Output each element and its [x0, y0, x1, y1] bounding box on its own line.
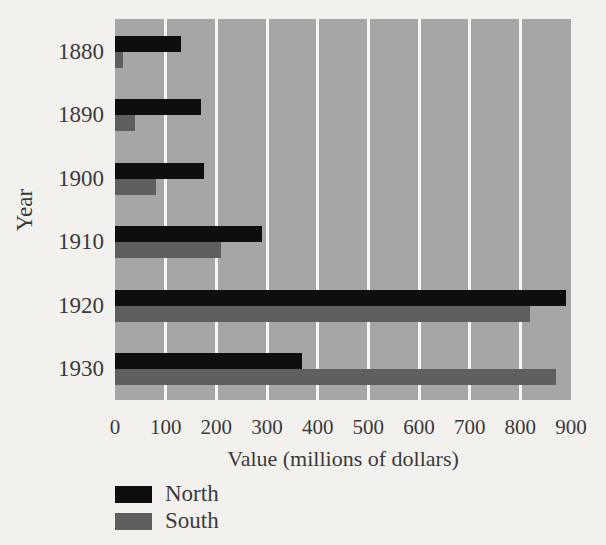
bar-chart-figure: Year 188018901900191019201930 0100200300…	[0, 0, 606, 545]
legend-item-north: North	[115, 481, 219, 507]
gridline-200	[215, 19, 218, 400]
x-tick-label-800: 800	[505, 414, 537, 440]
legend-item-south: South	[115, 508, 219, 534]
legend-label-south: South	[165, 508, 219, 534]
x-tick-label-100: 100	[150, 414, 182, 440]
x-tick-label-300: 300	[251, 414, 283, 440]
plot-area	[115, 19, 571, 400]
legend-swatch-north	[115, 486, 152, 503]
bar-north-1900	[115, 163, 204, 179]
y-tick-label-1930: 1930	[30, 356, 104, 382]
y-tick-label-1910: 1910	[30, 229, 104, 255]
bar-north-1920	[115, 290, 566, 306]
bar-south-1890	[115, 115, 135, 131]
bar-south-1910	[115, 242, 221, 258]
x-tick-label-200: 200	[201, 414, 233, 440]
x-tick-label-600: 600	[403, 414, 435, 440]
bar-north-1910	[115, 226, 262, 242]
x-tick-label-900: 900	[555, 414, 587, 440]
bar-south-1930	[115, 369, 556, 385]
bar-south-1880	[115, 52, 123, 68]
gridline-500	[367, 19, 370, 400]
gridline-300	[266, 19, 269, 400]
x-tick-label-400: 400	[302, 414, 334, 440]
x-tick-label-700: 700	[454, 414, 486, 440]
y-tick-label-1920: 1920	[30, 293, 104, 319]
gridline-800	[519, 19, 522, 400]
bar-north-1930	[115, 353, 302, 369]
gridline-600	[418, 19, 421, 400]
x-axis-title: Value (millions of dollars)	[115, 446, 571, 472]
legend-swatch-south	[115, 513, 152, 530]
gridline-100	[164, 19, 167, 400]
y-tick-label-1890: 1890	[30, 102, 104, 128]
bar-north-1880	[115, 36, 181, 52]
bar-north-1890	[115, 99, 201, 115]
bar-south-1900	[115, 179, 156, 195]
bar-south-1920	[115, 306, 530, 322]
x-tick-label-0: 0	[110, 414, 121, 440]
gridline-400	[316, 19, 319, 400]
gridline-700	[468, 19, 471, 400]
y-tick-label-1880: 1880	[30, 39, 104, 65]
x-tick-label-500: 500	[353, 414, 385, 440]
y-tick-label-1900: 1900	[30, 166, 104, 192]
legend-label-north: North	[165, 481, 219, 507]
